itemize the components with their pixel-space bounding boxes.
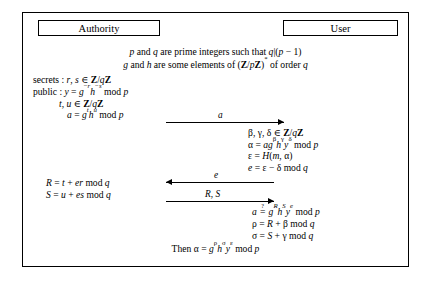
authority-a-line: a = gthu mod p	[33, 109, 128, 121]
authority-block-2: R = t + er mod q S = u + es mod q	[46, 177, 111, 201]
authority-R-line: R = t + er mod q	[46, 177, 110, 188]
protocol-figure: Authority User p and q are prime integer…	[0, 0, 431, 290]
common-parameter-line-2: g and h are some elements of (Z/pZ)* of …	[123, 59, 308, 70]
user-block-1: β, γ, δ ∈ Z/qZ α = agβhγyδ mod p ε = H(m…	[248, 127, 318, 173]
user-alpha-line: α = agβhγyδ mod p	[248, 139, 318, 150]
user-block-2: a ?= gRhSye mod p ρ = R + β mod q σ = S …	[252, 206, 320, 241]
user-rho-line: ρ = R + β mod q	[252, 218, 315, 229]
message-label-e: e	[214, 170, 218, 180]
user-epsilon-line: ε = H(m, α)	[248, 150, 292, 161]
arrow-head-left-icon	[166, 179, 172, 185]
user-sigma-line: σ = S + γ mod q	[252, 230, 313, 241]
party-box-user: User	[283, 20, 398, 36]
user-verify-line: a ?= gRhSye mod p	[252, 206, 320, 217]
authority-public-line: public : y = g−rh−s mod p	[33, 86, 128, 97]
arrow-shaft	[166, 182, 274, 183]
arrow-shaft	[166, 122, 284, 123]
message-label-a: a	[218, 110, 223, 120]
authority-tu-line: t, u ∈ Z/qZ	[33, 98, 128, 110]
authority-setup-block: secrets : r, s ∈ Z/qZ public : y = g−rh−…	[33, 74, 128, 121]
message-label-rs: R, S	[205, 189, 220, 199]
arrow-shaft	[166, 201, 274, 202]
authority-S-line: S = u + es mod q	[46, 189, 111, 200]
final-verification-line: Then α = gρhσyε mod p	[22, 243, 409, 255]
user-e-line: e = ε − δ mod q	[248, 162, 308, 173]
arrow-head-right-icon	[278, 119, 284, 125]
common-parameters: p and q are prime integers such that q|(…	[22, 46, 409, 71]
common-parameter-line-1: p and q are prime integers such that q|(…	[130, 46, 302, 57]
party-box-authority: Authority	[38, 20, 160, 36]
